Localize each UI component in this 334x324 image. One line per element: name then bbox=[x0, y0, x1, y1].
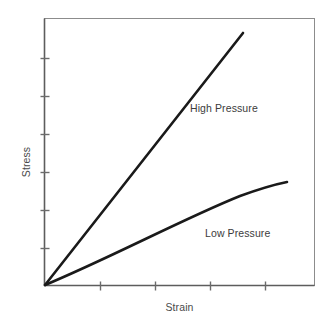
series-label-high-pressure: High Pressure bbox=[190, 102, 258, 114]
plot-frame bbox=[45, 19, 315, 286]
stress-strain-chart: High Pressure Low Pressure Stress Strain bbox=[0, 0, 334, 324]
series-label-low-pressure: Low Pressure bbox=[205, 227, 270, 239]
y-axis-title: Stress bbox=[18, 0, 34, 324]
x-axis-title: Strain bbox=[44, 300, 315, 314]
chart-plot-area bbox=[0, 0, 334, 324]
